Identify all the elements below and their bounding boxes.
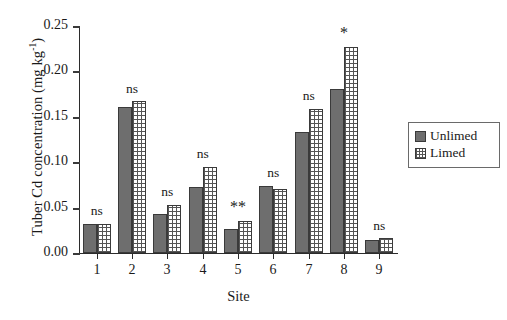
bar-unlimed-site-9 [365, 240, 379, 253]
bar-unlimed-site-3 [153, 214, 167, 253]
bar-group: ns [189, 26, 217, 253]
chart-legend: Unlimed Limed [408, 122, 500, 168]
y-axis-tick-label: 0.10 [44, 153, 69, 169]
bar-unlimed-site-4 [189, 187, 203, 253]
bar-group: ns [259, 26, 287, 253]
y-axis-tick-label: 0.20 [44, 62, 69, 78]
bar-group: ns [153, 26, 181, 253]
bar-limed-site-3 [167, 205, 181, 253]
bar-group: ns [365, 26, 393, 253]
legend-label-unlimed: Unlimed [430, 128, 477, 145]
x-axis-tick-label: 7 [294, 262, 324, 278]
y-axis-title-text: Tuber Cd concentration (mg kg [29, 51, 45, 236]
y-axis-title-exponent: -1 [28, 43, 38, 51]
bar-group: ** [224, 26, 252, 253]
x-axis-tick-label: 3 [152, 262, 182, 278]
bar-unlimed-site-2 [118, 107, 132, 253]
x-axis-tick-label: 6 [258, 262, 288, 278]
x-axis-tick [132, 253, 133, 259]
x-axis-tick-label: 1 [82, 262, 112, 278]
chart-figure: Tuber Cd concentration (mg kg-1) 0.000.0… [0, 0, 507, 320]
x-axis-tick-label: 5 [223, 262, 253, 278]
legend-item-limed: Limed [415, 145, 494, 162]
x-axis-tick [273, 253, 274, 259]
bar-group: ns [118, 26, 146, 253]
bar-limed-site-7 [309, 109, 323, 253]
x-axis-tick-label: 9 [364, 262, 394, 278]
x-axis-tick [379, 253, 380, 259]
bar-group: * [330, 26, 358, 253]
x-axis-tick [167, 253, 168, 259]
y-axis-tick: 0.00 [73, 253, 80, 254]
y-axis-tick-label: 0.25 [44, 17, 69, 33]
legend-swatch-limed-icon [415, 148, 426, 159]
bar-unlimed-site-5 [224, 229, 238, 253]
significance-label-site-1: ns [74, 204, 120, 218]
bar-unlimed-site-6 [259, 186, 273, 253]
significance-label-site-9: ns [356, 219, 402, 233]
bar-unlimed-site-1 [83, 224, 97, 253]
x-axis-tick [97, 253, 98, 259]
significance-label-site-8: * [321, 25, 367, 41]
significance-label-site-6: ns [250, 166, 296, 180]
y-axis-tick-label: 0.05 [44, 199, 69, 215]
significance-label-site-4: ns [180, 147, 226, 161]
plot-area: nsnsnsns**nsns*ns [79, 26, 397, 253]
x-axis-tick [344, 253, 345, 259]
legend-item-unlimed: Unlimed [415, 128, 494, 145]
y-axis-title: Tuber Cd concentration (mg kg-1) [28, 12, 46, 262]
significance-label-site-5: ** [215, 199, 261, 215]
significance-label-site-2: ns [109, 82, 155, 96]
y-axis-tick-label: 0.15 [44, 108, 69, 124]
x-axis-tick [238, 253, 239, 259]
x-axis-tick [309, 253, 310, 259]
bar-unlimed-site-7 [295, 132, 309, 253]
bar-limed-site-2 [132, 101, 146, 253]
x-axis-tick-label: 8 [329, 262, 359, 278]
bar-limed-site-5 [238, 221, 252, 253]
x-axis-tick-label: 4 [188, 262, 218, 278]
significance-label-site-3: ns [144, 185, 190, 199]
bar-limed-site-1 [97, 224, 111, 253]
x-axis-tick [203, 253, 204, 259]
legend-label-limed: Limed [430, 145, 465, 162]
bar-limed-site-9 [379, 238, 393, 253]
x-axis-title: Site [79, 288, 398, 305]
y-axis-tick-label: 0.00 [44, 244, 69, 260]
significance-label-site-7: ns [286, 89, 332, 103]
legend-swatch-unlimed-icon [415, 131, 426, 142]
bar-group: ns [295, 26, 323, 253]
y-axis-tick-mark [73, 253, 80, 255]
bar-limed-site-6 [273, 189, 287, 253]
bar-group: ns [83, 26, 111, 253]
y-axis-title-paren: ) [29, 38, 45, 43]
bar-unlimed-site-8 [330, 89, 344, 253]
x-axis-tick-label: 2 [117, 262, 147, 278]
